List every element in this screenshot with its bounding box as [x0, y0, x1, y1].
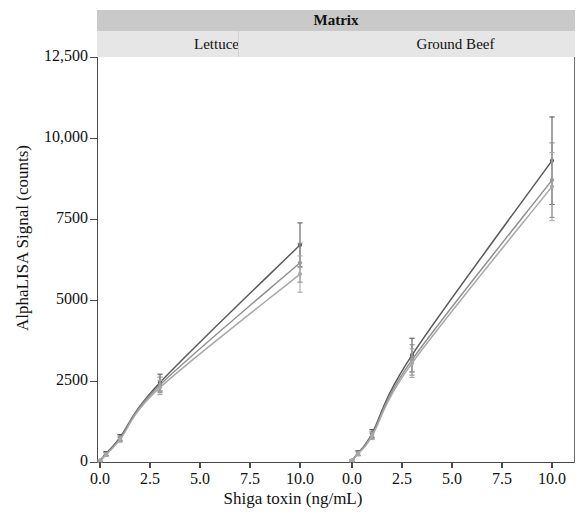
x-tick-mark [501, 462, 502, 468]
plot-area [97, 57, 575, 463]
facet-strip-panels: Lettuce Ground Beef [97, 31, 575, 57]
x-tick-label: 2.5 [128, 470, 172, 488]
x-tick-mark [451, 462, 452, 468]
y-tick-mark [90, 219, 97, 220]
x-tick-label: 7.5 [228, 470, 272, 488]
x-tick-label: 0.0 [78, 470, 122, 488]
y-tick-mark [90, 462, 97, 463]
y-tick-mark [90, 138, 97, 139]
x-tick-label: 0.0 [330, 470, 374, 488]
x-tick-label: 10.0 [278, 470, 322, 488]
panel-label-ground-beef: Ground Beef [336, 31, 575, 57]
y-tick-mark [90, 300, 97, 301]
x-tick-label: 5.0 [430, 470, 474, 488]
alphalisa-dose-response-chart: Matrix Lettuce Ground Beef 0250050007500… [0, 0, 586, 517]
x-tick-mark [199, 462, 200, 468]
x-tick-mark [249, 462, 250, 468]
y-tick-mark [90, 381, 97, 382]
x-tick-mark [401, 462, 402, 468]
y-axis-line [97, 57, 98, 463]
x-tick-mark [99, 462, 100, 468]
x-tick-label: 7.5 [480, 470, 524, 488]
x-tick-mark [299, 462, 300, 468]
panel-label-lettuce: Lettuce [97, 31, 336, 57]
plot-right-border [574, 57, 575, 463]
x-tick-mark [149, 462, 150, 468]
x-tick-label: 10.0 [530, 470, 574, 488]
x-tick-label: 2.5 [380, 470, 424, 488]
y-tick-mark [90, 57, 97, 58]
y-tick-label: 0 [8, 452, 88, 470]
x-axis-line [97, 462, 575, 463]
x-tick-label: 5.0 [178, 470, 222, 488]
y-axis-label: AlphaLISA Signal (counts) [13, 73, 33, 403]
x-axis-label: Shiga toxin (ng/mL) [0, 489, 586, 509]
x-tick-mark [551, 462, 552, 468]
facet-strip-matrix: Matrix [97, 10, 575, 31]
x-tick-mark [351, 462, 352, 468]
facet-strip-title: Matrix [97, 10, 575, 31]
y-tick-label: 12,500 [8, 47, 88, 65]
panel-divider [238, 31, 239, 57]
